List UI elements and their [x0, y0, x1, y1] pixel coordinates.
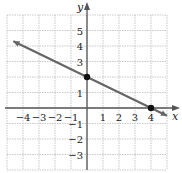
x-tick-label: −2 — [48, 112, 63, 123]
y-tick-label: −2 — [68, 134, 83, 145]
intercept-point — [148, 105, 154, 111]
y-axis-arrow-icon — [84, 2, 90, 10]
y-tick-label: 5 — [77, 26, 83, 37]
intercept-point — [84, 74, 90, 80]
x-axis-label: x — [172, 110, 179, 123]
y-tick-label: 4 — [77, 41, 83, 52]
coordinate-plane: xy−4−3−2−112345431−1−2−3 — [0, 0, 182, 173]
x-tick-label: −4 — [16, 112, 31, 123]
y-tick-label: −1 — [68, 119, 83, 130]
y-tick-label: 1 — [77, 88, 83, 99]
y-tick-label: 3 — [77, 57, 83, 68]
x-tick-label: 2 — [116, 112, 122, 123]
x-tick-label: −3 — [32, 112, 47, 123]
y-axis-label: y — [76, 1, 84, 14]
data-line — [13, 41, 167, 115]
y-tick-label: −3 — [68, 150, 83, 161]
x-tick-label: 1 — [100, 112, 106, 123]
x-tick-label: 3 — [132, 112, 138, 123]
x-tick-label: 4 — [148, 112, 154, 123]
